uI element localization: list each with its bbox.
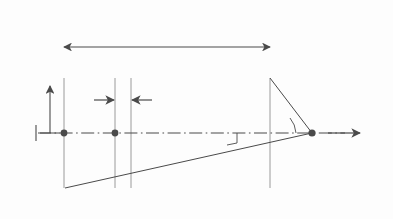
- radius-dimension-arrow: [40, 86, 60, 133]
- source-point-marker: [112, 130, 119, 137]
- diagram-canvas: [0, 0, 393, 219]
- field-point-marker: [308, 129, 315, 136]
- origin-point-marker: [61, 130, 68, 137]
- solenoid-field-diagram: [0, 0, 393, 219]
- theta2-triangle: [270, 78, 312, 133]
- theta1-line: [65, 133, 312, 188]
